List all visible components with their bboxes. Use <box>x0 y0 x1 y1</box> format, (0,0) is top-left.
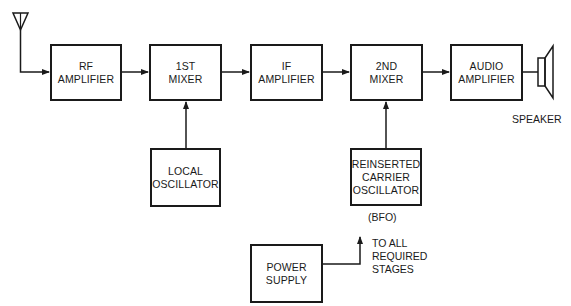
first-mixer-block: 1ST MIXER <box>149 44 222 101</box>
if-amplifier-block: IF AMPLIFIER <box>250 44 323 101</box>
second-mixer-label: 2ND MIXER <box>370 60 404 86</box>
speaker-label: SPEAKER <box>512 113 562 126</box>
to-all-stages-label: TO ALL REQUIRED STAGES <box>372 237 427 276</box>
rf-amplifier-label: RF AMPLIFIER <box>58 60 114 86</box>
local-oscillator-block: LOCAL OSCILLATOR <box>150 148 221 207</box>
bfo-block: REINSERTED CARRIER OSCILLATOR <box>350 148 422 206</box>
power-supply-label: POWER SUPPLY <box>266 261 307 287</box>
antenna-icon <box>13 13 28 30</box>
local-oscillator-label: LOCAL OSCILLATOR <box>152 165 219 191</box>
power-to-stages-wire <box>322 237 360 264</box>
power-supply-block: POWER SUPPLY <box>250 244 323 303</box>
bfo-label: REINSERTED CARRIER OSCILLATOR <box>352 158 421 197</box>
if-amplifier-label: IF AMPLIFIER <box>258 60 314 86</box>
second-mixer-block: 2ND MIXER <box>350 44 423 101</box>
first-mixer-label: 1ST MIXER <box>169 60 203 86</box>
audio-amplifier-label: AUDIO AMPLIFIER <box>458 60 514 86</box>
audio-amplifier-block: AUDIO AMPLIFIER <box>450 44 523 101</box>
rf-amplifier-block: RF AMPLIFIER <box>50 44 122 101</box>
speaker-icon <box>538 46 553 98</box>
antenna-to-rf-wire <box>21 30 50 72</box>
bfo-caption: (BFO) <box>368 211 397 224</box>
